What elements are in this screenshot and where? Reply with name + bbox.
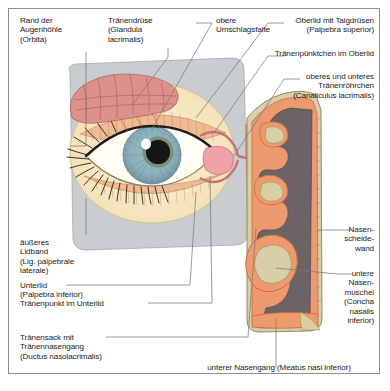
nasal-cavity <box>246 91 322 332</box>
label-punctum-lower: Tränenpunkt im Unterlid <box>20 299 152 308</box>
label-inferior-meatus: unterer Nasengang (Meatus nasi inferior) <box>186 363 372 372</box>
label-upper-lid: Oberlid mit Talgdrüsen (Palpebra superio… <box>226 16 374 35</box>
label-lacrimal-gland: Tränendrüse (Glandula lacrimalis) <box>108 16 184 44</box>
label-nasal-septum: Nasen- scheide- wand <box>330 225 374 253</box>
label-orbita: Rand der Augenhöhle (Orbita) <box>20 16 102 44</box>
label-punctum-upper: Tränenpünktchen im Oberlid <box>226 49 374 58</box>
label-inferior-concha: untere Nasen- muschel (Concha nasalis in… <box>330 269 374 325</box>
label-lower-lid: Unterlid (Palpebra inferior) <box>20 281 130 300</box>
label-lateral-ligament: äußeres Lidband (Lig. palpebrale lateral… <box>20 238 124 276</box>
label-lacrimal-sac: Tränensack mit Tränennasengang (Ductus n… <box>20 333 146 361</box>
label-canaliculi: oberes und unteres Tränenröhrchen (Canal… <box>226 72 374 100</box>
